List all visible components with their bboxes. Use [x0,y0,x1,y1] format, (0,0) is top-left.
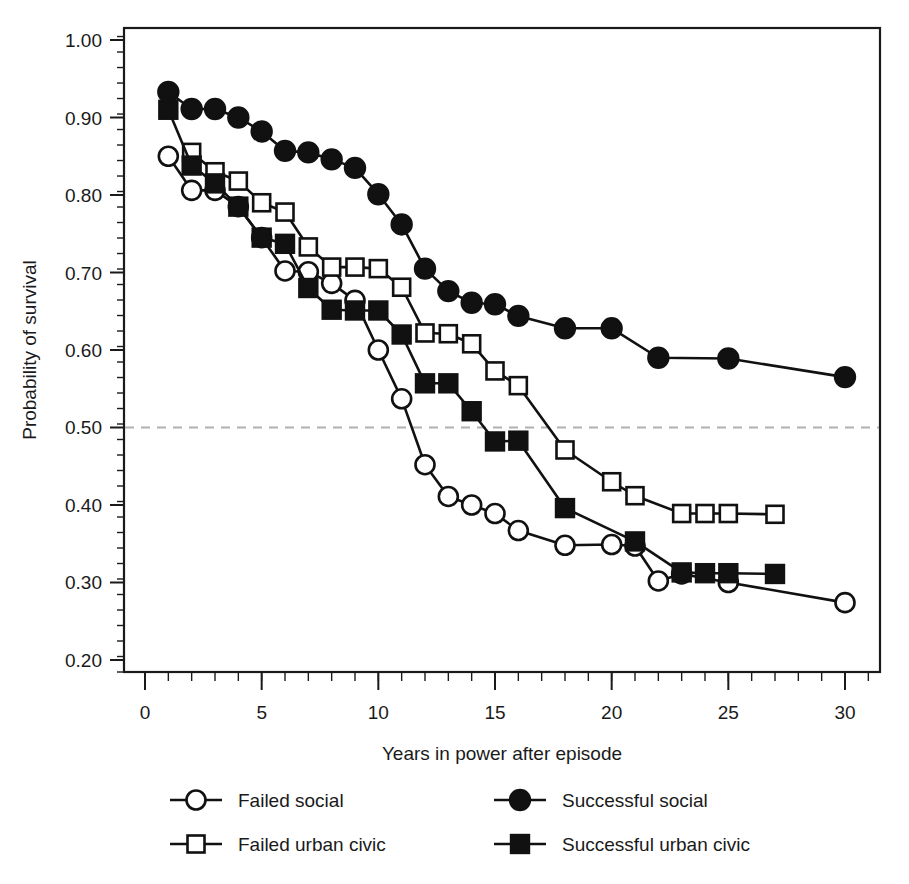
legend-item-failed-social[interactable]: Failed social [170,790,344,811]
series-2-point-2 [205,99,225,119]
series-3-point-13 [463,402,481,420]
series-3-point-6 [299,279,317,297]
series-2-point-0 [158,82,178,102]
series-3-point-2 [206,174,224,192]
series-2-point-7 [322,149,342,169]
series-0-point-9 [369,341,388,360]
x-axis-title: Years in power after episode [382,743,622,764]
series-0-point-16 [556,536,575,555]
legend-marker-filled-circle-icon [510,790,530,810]
y-tick-label-0.50: 0.50 [65,417,102,438]
series-2-point-18 [648,348,668,368]
series-1-point-17 [627,487,644,504]
series-1-point-16 [603,473,620,490]
series-3-point-11 [416,374,434,392]
series-0-point-0 [159,147,178,166]
series-1-point-8 [370,260,387,277]
series-0-point-12 [439,487,458,506]
series-1-point-9 [393,279,410,296]
y-tick-label-0.40: 0.40 [65,495,102,516]
series-1-point-2 [230,173,247,190]
series-3-point-8 [346,301,364,319]
series-2-point-5 [275,141,295,161]
series-2-point-12 [438,281,458,301]
series-1-point-6 [323,259,340,276]
series-3-point-9 [369,301,387,319]
x-tick-label-5: 5 [256,702,267,723]
legend-label: Failed urban civic [238,834,386,855]
y-tick-label-0.60: 0.60 [65,340,102,361]
legend-label: Failed social [238,790,344,811]
series-3-point-3 [229,198,247,216]
survival-curve-figure: 0.200.300.400.500.600.700.800.901.000510… [0,0,909,884]
series-2-point-6 [298,142,318,162]
series-2-point-9 [368,184,388,204]
legend-label: Successful social [562,790,708,811]
y-tick-label-0.70: 0.70 [65,263,102,284]
series-3-point-10 [393,326,411,344]
x-tick-label-15: 15 [484,702,505,723]
series-1-point-11 [440,325,457,342]
series-2-point-13 [462,293,482,313]
x-tick-label-10: 10 [368,702,389,723]
y-axis-title: Probability of survival [19,260,40,440]
legend-item-successful-social[interactable]: Successful social [494,790,708,811]
series-3-point-5 [276,235,294,253]
x-tick-label-25: 25 [718,702,739,723]
series-2-point-20 [835,367,855,387]
series-0-point-17 [602,535,621,554]
legend-marker-filled-square-icon [511,835,529,853]
series-3-point-0 [159,101,177,119]
series-2-point-10 [392,214,412,234]
y-tick-label-1.00: 1.00 [65,30,102,51]
series-3-point-17 [626,532,644,550]
series-1-point-18 [673,505,690,522]
series-1-point-4 [277,204,294,221]
y-tick-label-0.30: 0.30 [65,572,102,593]
series-3-point-1 [183,157,201,175]
series-1-point-14 [510,377,527,394]
y-tick-label-0.90: 0.90 [65,108,102,129]
series-2-point-19 [718,349,738,369]
series-3-point-16 [556,499,574,517]
series-3-point-14 [486,432,504,450]
series-3-point-15 [509,432,527,450]
y-tick-label-0.80: 0.80 [65,185,102,206]
series-0-point-14 [486,504,505,523]
legend-item-successful-urban-civic[interactable]: Successful urban civic [494,834,750,855]
series-3-point-19 [696,564,714,582]
series-0-point-11 [416,455,435,474]
chart-canvas: 0.200.300.400.500.600.700.800.901.000510… [0,0,909,884]
series-0-point-22 [836,593,855,612]
series-1-point-21 [767,506,784,523]
series-1-point-13 [487,362,504,379]
legend-label: Successful urban civic [562,834,750,855]
series-1-point-19 [697,505,714,522]
legend-item-failed-urban-civic[interactable]: Failed urban civic [170,834,386,855]
series-2-point-1 [182,99,202,119]
series-1-point-20 [720,505,737,522]
series-1-point-10 [417,324,434,341]
series-2-point-14 [485,294,505,314]
series-2-point-3 [228,108,248,128]
series-0-point-15 [509,521,528,540]
series-1-point-7 [347,259,364,276]
legend-marker-open-circle-icon [187,791,206,810]
series-3-point-12 [439,374,457,392]
series-2-point-15 [508,306,528,326]
series-3-point-4 [253,229,271,247]
series-3-point-7 [323,301,341,319]
x-tick-label-0: 0 [140,702,151,723]
series-3-point-21 [766,565,784,583]
x-tick-label-20: 20 [601,702,622,723]
series-2-point-8 [345,158,365,178]
series-3-point-20 [719,564,737,582]
series-0-point-19 [649,571,668,590]
series-0-point-10 [392,389,411,408]
y-tick-label-0.20: 0.20 [65,650,102,671]
series-2-point-4 [252,121,272,141]
series-2-point-16 [555,318,575,338]
series-1-point-3 [253,194,270,211]
series-3-point-18 [673,563,691,581]
series-2-point-17 [602,318,622,338]
